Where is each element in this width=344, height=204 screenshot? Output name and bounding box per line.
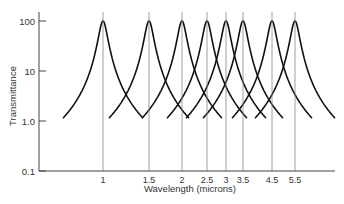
y-ticks: 100101.00.1: [19, 16, 46, 177]
filter-curves: [63, 21, 335, 118]
y-tick-label: 100: [19, 16, 35, 27]
x-tick-label: 1: [100, 175, 105, 185]
center-lines: [103, 12, 295, 171]
y-tick-label: 0.1: [22, 166, 35, 177]
y-tick-label: 10: [24, 66, 35, 77]
y-axis-label: Transmittance: [7, 66, 18, 126]
x-tick-label: 3.5: [237, 175, 250, 185]
transmittance-chart: 100101.00.1 11.522.533.54.55.5 Transmitt…: [0, 0, 344, 204]
x-axis-label: Wavelength (microns): [144, 183, 236, 194]
y-tick-label: 1.0: [22, 116, 35, 127]
x-tick-label: 5.5: [289, 175, 302, 185]
x-tick-label: 4.5: [266, 175, 279, 185]
